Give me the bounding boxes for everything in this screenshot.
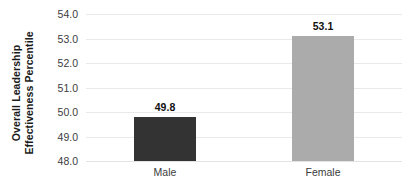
y-axis-tick-label: 53.0 [38, 34, 78, 44]
bar-female[interactable] [292, 36, 354, 161]
bar-group: 53.1 [292, 14, 354, 161]
y-axis-tick-label: 52.0 [38, 58, 78, 68]
bar-group: 49.8 [134, 14, 196, 161]
gridline [86, 161, 402, 162]
bar-value-label: 49.8 [134, 102, 196, 113]
y-axis-tick-label: 49.0 [38, 132, 78, 142]
y-axis-title-line-1: Overall Leadership [10, 45, 22, 141]
plot-area: 49.853.1 [86, 14, 402, 161]
y-axis-tick-label: 54.0 [38, 9, 78, 19]
x-axis-label-female: Female [273, 166, 373, 178]
x-axis-label-male: Male [115, 166, 215, 178]
y-axis-tick-label: 51.0 [38, 83, 78, 93]
y-axis-tick-label: 48.0 [38, 156, 78, 166]
bar-chart: Overall Leadership Effectiveness Percent… [0, 0, 416, 186]
y-axis-title-line-2: Effectiveness Percentile [23, 31, 35, 154]
y-axis-tick-label: 50.0 [38, 107, 78, 117]
bar-value-label: 53.1 [292, 21, 354, 32]
bar-male[interactable] [134, 117, 196, 161]
